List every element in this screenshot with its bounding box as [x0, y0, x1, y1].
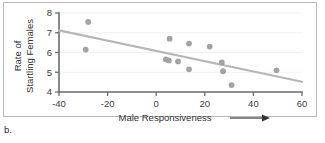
y-tick-label: 8	[47, 7, 52, 18]
y-axis-title-line2: Startling Females	[24, 19, 35, 93]
x-tick-label: 20	[200, 98, 211, 109]
panel-label: b.	[4, 124, 12, 135]
data-point	[207, 44, 213, 50]
trend-line	[59, 30, 302, 81]
x-tick-label: -40	[52, 98, 66, 109]
data-point	[166, 58, 172, 64]
arrow-icon	[230, 115, 270, 122]
x-tick-label: 0	[154, 98, 159, 109]
figure-root: 45678 -40-200204060 Rate of Startling Fe…	[0, 0, 325, 143]
x-axis: -40-200204060	[52, 92, 307, 109]
data-points	[83, 19, 280, 88]
x-axis-title-text: Male Responsiveness	[119, 112, 212, 123]
data-point	[229, 82, 235, 88]
y-axis-title: Rate of Startling Females	[12, 19, 35, 93]
x-tick-label: -20	[101, 98, 115, 109]
y-axis: 45678	[47, 7, 59, 97]
gridlines	[59, 13, 302, 92]
data-point	[167, 36, 173, 42]
x-axis-title: Male Responsiveness	[119, 112, 270, 123]
y-axis-title-line1: Rate of	[12, 40, 23, 71]
x-axis-ticks: -40-200204060	[52, 92, 307, 109]
y-tick-label: 4	[47, 86, 52, 97]
y-tick-label: 7	[47, 27, 52, 38]
data-point	[85, 19, 91, 25]
data-point	[186, 66, 192, 72]
scatter-chart: 45678 -40-200204060 Rate of Startling Fe…	[0, 0, 325, 143]
x-tick-label: 60	[297, 98, 308, 109]
y-axis-ticks: 45678	[47, 7, 59, 97]
x-tick-label: 40	[248, 98, 259, 109]
data-point	[83, 47, 89, 53]
data-point	[274, 67, 280, 73]
data-point	[220, 68, 226, 74]
y-tick-label: 5	[47, 67, 52, 78]
data-point	[186, 41, 192, 47]
data-point	[175, 58, 181, 64]
data-point	[219, 59, 225, 65]
y-tick-label: 6	[47, 47, 52, 58]
